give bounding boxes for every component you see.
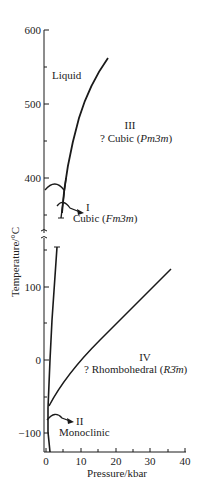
y-tick-100: 100 — [25, 281, 42, 293]
x-tick-10: 10 — [76, 455, 88, 467]
arrowhead-II-icon — [67, 418, 74, 424]
y-tick-400: 400 — [25, 172, 42, 184]
y-tick-600: 600 — [25, 24, 42, 36]
label-phase-IV: IV — [139, 351, 151, 363]
boundary-III-IV — [49, 269, 171, 406]
label-phase-I-structure: Cubic (Fm3m) — [73, 212, 138, 225]
x-tick-30: 30 — [145, 455, 157, 467]
boundary-II-lower — [48, 408, 50, 452]
y-tick-0: 0 — [36, 354, 42, 366]
label-phase-III: III — [125, 119, 136, 131]
transition-arc-upper — [45, 184, 64, 190]
boundary-II-III — [48, 247, 57, 408]
y-tick-minus100: −100 — [18, 427, 41, 439]
phase-diagram: 600 500 400 100 0 −100 0 10 20 30 40 Pre… — [0, 0, 205, 502]
boundary-I-III — [61, 178, 66, 218]
arrow-to-phase-II — [47, 414, 70, 421]
x-tick-0: 0 — [43, 455, 49, 467]
x-tick-40: 40 — [180, 455, 192, 467]
label-phase-II-structure: Monoclinic — [59, 426, 110, 438]
x-axis-title: Pressure/kbar — [87, 467, 147, 479]
label-liquid: Liquid — [52, 69, 82, 81]
y-axis-title: Temperature/°C — [9, 227, 21, 297]
x-tick-20: 20 — [111, 455, 123, 467]
label-phase-III-structure: ? Cubic (Pm3m) — [100, 132, 172, 145]
arrow-to-phase-I — [57, 202, 80, 212]
y-tick-500: 500 — [25, 98, 42, 110]
x-ticks — [46, 448, 185, 452]
label-phase-IV-structure: ? Rhombohedral (R3̄m) — [84, 363, 188, 376]
